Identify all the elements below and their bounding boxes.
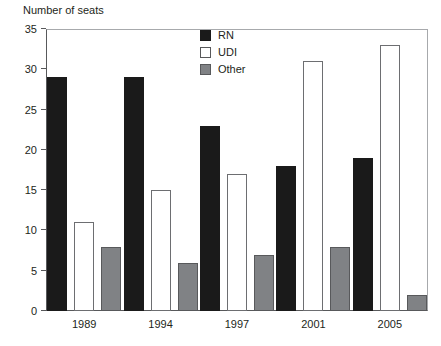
y-axis-tick-label: 15 [25,184,37,196]
y-axis-tick-label: 10 [25,224,37,236]
y-axis-tick: 5 [0,265,46,277]
bar-udi-2001 [303,61,323,311]
bar-other-2005 [407,295,427,311]
y-axis-tick: 25 [0,104,46,116]
bar-other-1997 [254,255,274,311]
y-axis-tick: 0 [0,305,46,317]
legend-item-label: Other [218,63,246,76]
bar-rn-2005 [353,158,373,311]
bar-udi-1997 [227,174,247,311]
legend-item-rn: RN [200,27,292,44]
chart-legend: RNUDIOther [200,27,292,78]
x-axis-tick-label: 2001 [275,318,351,331]
y-axis-tick: 35 [0,23,46,35]
legend-item-label: RN [218,29,234,42]
bar-other-1989 [101,247,121,311]
y-axis-tick: 20 [0,144,46,156]
legend-item-label: UDI [218,46,237,59]
y-axis-tick-label: 0 [31,305,37,317]
black-square-swatch [200,30,211,41]
white-square-swatch [200,47,211,58]
bar-rn-2001 [276,166,296,311]
y-axis-tick-label: 35 [25,23,37,35]
y-axis: 05101520253035 [0,0,46,346]
y-axis-tick-label: 25 [25,104,37,116]
y-axis-tick: 15 [0,184,46,196]
bar-chart: Number of seats 05101520253035 RNUDIOthe… [0,0,441,346]
bar-rn-1997 [200,126,220,311]
bar-other-1994 [178,263,198,311]
y-axis-tick: 30 [0,63,46,75]
legend-item-udi: UDI [200,44,292,61]
gray-square-swatch [200,64,211,75]
y-axis-tick-label: 30 [25,63,37,75]
bar-udi-1994 [151,190,171,311]
x-axis-tick-label: 1994 [122,318,198,331]
bar-other-2001 [330,247,350,311]
bar-udi-1989 [74,222,94,311]
x-axis-tick-label: 1997 [199,318,275,331]
legend-item-other: Other [200,61,292,78]
y-axis-tick-label: 5 [31,265,37,277]
y-axis-tick: 10 [0,224,46,236]
bar-rn-1994 [124,77,144,311]
x-axis-tick-label: 1989 [46,318,122,331]
x-axis-tick-label: 2005 [352,318,428,331]
y-axis-tick-label: 20 [25,144,37,156]
bar-rn-1989 [47,77,67,311]
bar-udi-2005 [380,45,400,311]
